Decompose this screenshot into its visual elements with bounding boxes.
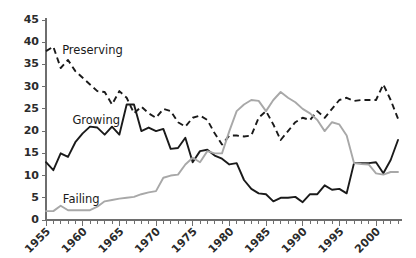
x-tick-label: 1960	[59, 225, 90, 256]
y-tick-label: 5	[31, 191, 39, 204]
x-tick-label: 1965	[96, 225, 127, 256]
y-tick-label: 30	[24, 80, 40, 93]
y-tick-label: 25	[24, 102, 39, 115]
y-tick-label: 10	[24, 169, 40, 182]
series-label-preserving: Preserving	[62, 43, 123, 57]
data-series-group	[46, 47, 398, 211]
x-tick-label: 1995	[316, 225, 347, 256]
y-tick-label: 20	[24, 124, 40, 137]
line-chart: 051015202530354045 195519601965197019751…	[0, 0, 416, 258]
series-labels-group: PreservingGrowingFailing	[62, 43, 123, 206]
y-axis: 051015202530354045	[24, 13, 46, 226]
y-tick-label: 0	[31, 213, 39, 226]
x-tick-label: 1980	[206, 225, 237, 256]
chart-container: 051015202530354045 195519601965197019751…	[0, 0, 416, 258]
x-tick-label: 1975	[169, 225, 200, 256]
x-tick-label: 1985	[242, 225, 273, 256]
y-tick-label: 35	[24, 57, 39, 70]
y-tick-label: 40	[24, 35, 40, 48]
x-tick-label: 1970	[132, 225, 163, 256]
series-label-growing: Growing	[72, 113, 120, 127]
x-axis: 1955196019651970197519801985199019952000	[22, 220, 402, 256]
y-tick-label: 15	[24, 146, 39, 159]
x-tick-label: 1990	[279, 225, 310, 256]
x-tick-label: 2000	[352, 225, 383, 256]
x-tick-label: 1955	[22, 225, 53, 256]
series-label-failing: Failing	[63, 192, 100, 206]
y-tick-label: 45	[24, 13, 39, 26]
